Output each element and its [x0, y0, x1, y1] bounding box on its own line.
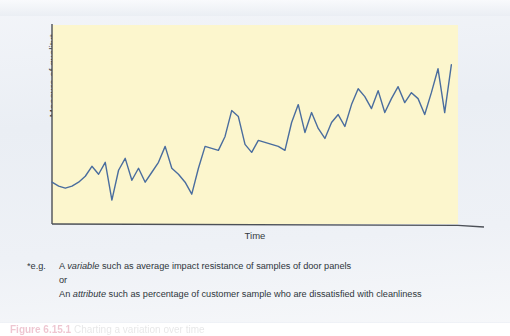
caption-text: Charting a variation over time	[74, 324, 205, 335]
footnote-l3-italic: attribute	[73, 289, 106, 299]
footnote-line-1-text: A variable such as average impact resist…	[59, 259, 497, 273]
chart-svg	[22, 20, 488, 235]
footnote-line-1: *e.g. A variable such as average impact …	[27, 259, 497, 273]
footnote-l3-post: such as percentage of customer sample wh…	[106, 289, 422, 299]
figure-container: Measure of quality* Time *e.g. A variabl…	[0, 0, 510, 336]
x-axis-line	[52, 224, 484, 227]
x-axis-title: Time	[52, 230, 458, 241]
footnote-l1-italic: variable	[67, 261, 99, 271]
footnote-l1-pre: A	[59, 261, 67, 271]
footnote-marker: *e.g.	[27, 259, 59, 273]
footnote-l3-pre: An	[59, 289, 73, 299]
caption-number: 6.15.1	[43, 324, 71, 335]
footnote-l1-post: such as average impact resistance of sam…	[99, 261, 351, 271]
chart: Measure of quality* Time	[22, 20, 488, 235]
caption-label: Figure	[10, 324, 41, 335]
footnote: *e.g. A variable such as average impact …	[27, 259, 497, 302]
footnote-line-2: or	[27, 273, 497, 287]
figure-caption: Figure 6.15.1 Charting a variation over …	[10, 324, 205, 335]
data-series-line	[52, 65, 451, 200]
figure-caption-strip: Figure 6.15.1 Charting a variation over …	[0, 323, 510, 336]
footnote-line-3: An attribute such as percentage of custo…	[27, 287, 497, 301]
